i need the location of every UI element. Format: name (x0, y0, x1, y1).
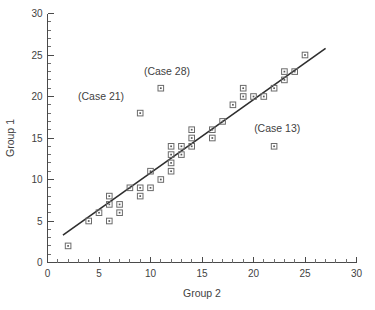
marker-center-dot (170, 145, 172, 147)
marker-center-dot (191, 145, 193, 147)
y-tick-label: 20 (31, 91, 43, 102)
x-axis-major-ticks (48, 257, 357, 263)
marker-center-dot (160, 87, 162, 89)
marker-center-dot (242, 96, 244, 98)
data-point (158, 85, 164, 91)
marker-center-dot (98, 212, 100, 214)
marker-center-dot (284, 71, 286, 73)
scatter-plot-figure: 051015202530 051015202530 (Case 21)(Case… (0, 0, 375, 310)
data-point (189, 135, 195, 141)
marker-center-dot (242, 87, 244, 89)
data-point (117, 202, 123, 208)
case-annotation-label: (Case 21) (78, 90, 124, 102)
marker-center-dot (129, 187, 131, 189)
y-tick-label: 15 (31, 133, 43, 144)
marker-center-dot (181, 145, 183, 147)
data-point (107, 218, 113, 224)
marker-center-dot (191, 129, 193, 131)
y-axis: 051015202530 (31, 8, 53, 268)
data-point (282, 69, 288, 75)
data-point (189, 127, 195, 133)
marker-center-dot (211, 137, 213, 139)
x-axis: 051015202530 (45, 257, 363, 279)
x-tick-label: 15 (196, 268, 208, 279)
y-tick-label: 25 (31, 50, 43, 61)
marker-center-dot (108, 195, 110, 197)
y-axis-title: Group 1 (4, 119, 16, 157)
x-axis-title: Group 2 (183, 287, 221, 299)
marker-center-dot (263, 96, 265, 98)
case-annotation-label: (Case 13) (254, 122, 300, 134)
data-point (168, 168, 174, 174)
marker-center-dot (284, 79, 286, 81)
marker-center-dot (181, 154, 183, 156)
y-axis-tick-labels: 051015202530 (31, 8, 43, 268)
data-point (230, 102, 236, 108)
data-point (240, 94, 246, 100)
data-point (65, 243, 71, 249)
data-point (302, 52, 308, 58)
marker-center-dot (211, 129, 213, 131)
x-tick-label: 30 (351, 268, 363, 279)
y-axis-major-ticks (48, 14, 54, 263)
marker-center-dot (150, 187, 152, 189)
x-tick-label: 0 (45, 268, 51, 279)
data-point-markers (65, 52, 308, 249)
data-point (137, 193, 143, 199)
marker-center-dot (88, 220, 90, 222)
marker-center-dot (170, 170, 172, 172)
marker-center-dot (139, 187, 141, 189)
regression-fit-line (63, 48, 326, 235)
marker-center-dot (160, 179, 162, 181)
data-point (107, 193, 113, 199)
marker-center-dot (67, 245, 69, 247)
marker-center-dot (108, 220, 110, 222)
plot-canvas: 051015202530 051015202530 (Case 21)(Case… (0, 0, 375, 310)
marker-center-dot (191, 137, 193, 139)
data-point (210, 135, 216, 141)
data-point (271, 144, 277, 150)
data-point (137, 185, 143, 191)
data-point (158, 177, 164, 183)
data-point (179, 144, 185, 150)
marker-center-dot (253, 96, 255, 98)
x-axis-tick-labels: 051015202530 (45, 268, 363, 279)
marker-center-dot (304, 54, 306, 56)
data-point (137, 110, 143, 116)
y-tick-label: 5 (37, 216, 43, 227)
y-tick-label: 10 (31, 174, 43, 185)
marker-center-dot (170, 154, 172, 156)
y-tick-label: 0 (37, 257, 43, 268)
marker-center-dot (294, 71, 296, 73)
fit-line-segment (63, 48, 326, 235)
marker-center-dot (139, 112, 141, 114)
data-point (240, 85, 246, 91)
marker-center-dot (222, 121, 224, 123)
case-annotation-label: (Case 28) (144, 65, 190, 77)
data-point (168, 144, 174, 150)
x-tick-label: 10 (145, 268, 157, 279)
x-tick-label: 5 (96, 268, 102, 279)
marker-center-dot (119, 212, 121, 214)
data-point (168, 160, 174, 166)
y-tick-label: 30 (31, 8, 43, 19)
marker-center-dot (170, 162, 172, 164)
marker-center-dot (119, 204, 121, 206)
marker-center-dot (150, 170, 152, 172)
marker-center-dot (273, 87, 275, 89)
marker-center-dot (273, 145, 275, 147)
marker-center-dot (108, 204, 110, 206)
marker-center-dot (139, 195, 141, 197)
x-tick-label: 25 (299, 268, 311, 279)
data-point (148, 185, 154, 191)
x-tick-label: 20 (248, 268, 260, 279)
data-point (117, 210, 123, 216)
marker-center-dot (232, 104, 234, 106)
